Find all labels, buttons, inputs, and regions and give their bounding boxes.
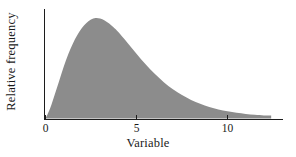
y-axis-label: Relative frequency [4,12,19,110]
x-tick-label-10: 10 [214,123,241,135]
density-area-shape [46,18,272,119]
x-tick-label-5: 5 [123,123,150,135]
y-axis-label-container: Relative frequency [0,0,22,122]
x-axis-label: Variable [0,136,296,151]
x-tick-label-0: 0 [32,123,59,135]
relative-frequency-distribution-figure: 0 5 10 Variable Relative frequency [0,0,296,157]
